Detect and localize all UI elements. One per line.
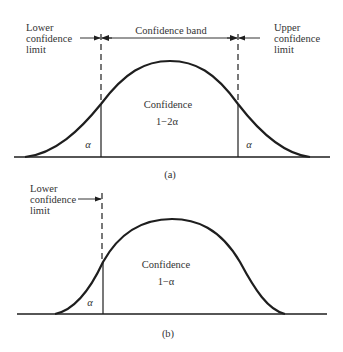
panel-a-upper-label-3: limit (274, 44, 294, 55)
confidence-interval-diagram: Lower confidence limit Upper confidence … (0, 0, 343, 352)
panel-a-center-value: 1−2α (156, 116, 178, 127)
panel-b-caption: (b) (162, 328, 175, 340)
panel-a-right-tail-label: α (246, 139, 252, 150)
panel-b-center-value: 1−α (158, 276, 175, 287)
panel-a-lower-label-2: confidence (26, 33, 72, 44)
panel-a-left-tail-label: α (85, 139, 91, 150)
panel-a-upper-label-2: confidence (274, 33, 320, 44)
panel-b-lower-label-3: limit (30, 205, 50, 216)
panel-b-lower-label-1: Lower (30, 183, 58, 194)
panel-a-caption: (a) (164, 169, 176, 181)
panel-a-band-label: Confidence band (135, 25, 207, 36)
panel-a-upper-label-1: Upper (274, 22, 301, 33)
panel-a-lower-label-3: limit (26, 44, 46, 55)
panel-a: Lower confidence limit Upper confidence … (14, 22, 330, 181)
panel-a-lower-label-1: Lower (26, 22, 54, 33)
panel-b: Lower confidence limit Confidence 1−α α … (17, 183, 327, 340)
panel-b-center-label: Confidence (142, 259, 191, 270)
panel-b-lower-label-2: confidence (30, 194, 76, 205)
panel-a-center-label: Confidence (144, 99, 193, 110)
panel-b-left-tail-label: α (87, 297, 93, 308)
